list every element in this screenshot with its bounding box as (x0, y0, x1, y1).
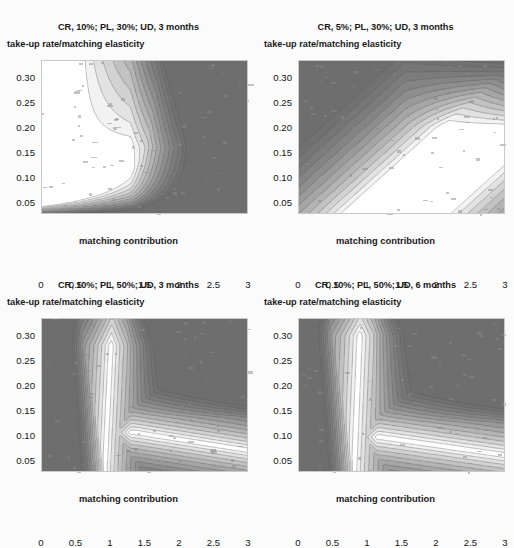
contour-label-mark (208, 68, 213, 70)
contour-label-mark (480, 214, 483, 216)
contour-label-mark (329, 372, 333, 374)
contour-label-mark (217, 188, 220, 191)
contour-label-mark (55, 420, 59, 422)
contour-label-mark (303, 385, 308, 386)
contour-label-mark (439, 167, 443, 168)
contour-label-mark (157, 466, 161, 468)
contour-label-mark (462, 354, 466, 356)
contour-label-mark (91, 324, 94, 326)
contour-label-mark (88, 396, 93, 398)
y-tick-label: 0.15 (273, 404, 292, 415)
contour-label-mark (138, 351, 144, 352)
contour-label-mark (324, 151, 327, 153)
panel-title: CR, 10%; PL, 50%; UD, 3 months (0, 280, 257, 290)
contour-label-mark (418, 343, 421, 344)
contour-label-mark (126, 450, 131, 452)
panel-title: CR, 5%; PL, 30%; UD, 3 months (257, 22, 514, 32)
contour-label-mark (316, 65, 320, 68)
contour-label-mark (439, 361, 441, 363)
x-axis-label: matching contribution (0, 235, 257, 246)
contour-label-mark (466, 78, 471, 80)
contour-label-mark (362, 168, 368, 170)
contour-label-mark (319, 465, 321, 467)
contour-label-mark (324, 77, 329, 78)
contour-label-mark (482, 87, 485, 89)
contour-label-mark (166, 197, 169, 199)
contour-label-mark (313, 370, 318, 372)
contour-label-mark (205, 413, 210, 415)
contour-label-mark (431, 414, 435, 416)
contour-label-mark (414, 402, 418, 404)
contour-label-mark (47, 363, 50, 365)
contour-label-mark (115, 118, 119, 120)
contour-label-mark (138, 433, 141, 435)
contour-label-mark (354, 71, 360, 74)
contour-label-mark (482, 416, 488, 418)
contour-label-mark (241, 396, 245, 399)
x-tick-label: 1 (107, 537, 112, 548)
contour-label-mark (307, 377, 312, 379)
contour-label-mark (173, 173, 176, 175)
contour-label-mark (409, 467, 412, 470)
contour-label-mark (333, 470, 336, 473)
contour-label-mark (138, 206, 141, 209)
contour-label-mark (318, 391, 322, 394)
contour-label-mark (466, 73, 469, 76)
y-tick-label: 0.10 (16, 429, 35, 440)
contour-label-mark (432, 137, 437, 140)
contour-label-mark (161, 165, 165, 167)
contour-label-mark (319, 429, 325, 431)
contour-label-mark (82, 441, 86, 443)
plot-area[interactable]: 0.050.100.150.200.250.3000.511.522.53 (41, 60, 248, 214)
contour-label-mark (354, 133, 357, 135)
contour-label-mark (74, 91, 80, 94)
x-tick-label: 1.5 (138, 537, 151, 548)
y-tick-label: 0.05 (16, 454, 35, 465)
contour-label-mark (53, 318, 58, 320)
y-tick-label: 0.25 (273, 355, 292, 366)
contour-label-mark (89, 193, 92, 195)
contour-label-mark (417, 408, 422, 410)
contour-label-mark (400, 444, 405, 446)
contour-label-mark (231, 459, 233, 462)
contour-label-mark (109, 319, 113, 321)
contour-label-mark (376, 128, 379, 130)
contour-label-mark (210, 449, 216, 451)
plot-area[interactable]: 0.050.100.150.200.250.3000.511.522.53 (41, 318, 248, 472)
plot-area[interactable]: 0.050.100.150.200.250.3000.511.522.53 (298, 60, 505, 214)
contour-label-mark (468, 472, 470, 474)
contour-label-mark (184, 322, 188, 324)
contour-label-mark (467, 359, 472, 360)
contour-label-mark (153, 430, 156, 432)
contour-label-mark (90, 393, 94, 396)
contour-label-mark (184, 338, 186, 340)
contour-label-mark (89, 63, 93, 66)
contour-label-mark (349, 174, 352, 177)
plot-area[interactable]: 0.050.100.150.200.250.3000.511.522.53 (298, 318, 505, 472)
contour-label-mark (319, 440, 323, 442)
x-tick-label: 0.5 (69, 537, 82, 548)
contour-label-mark (202, 136, 205, 138)
contour-label-mark (48, 455, 51, 457)
x-tick-label: 3 (502, 537, 507, 548)
contour-label-mark (449, 342, 452, 345)
contour-label-mark (415, 137, 421, 140)
y-tick-label: 0.10 (16, 171, 35, 182)
contour-label-mark (209, 352, 215, 353)
contour-label-mark (374, 69, 379, 70)
contour-label-mark (316, 174, 319, 176)
contour-label-mark (448, 66, 451, 68)
y-tick-label: 0.20 (16, 380, 35, 391)
contour-label-mark (431, 356, 436, 359)
contour-label-mark (217, 430, 221, 432)
contour-label-mark (396, 328, 402, 330)
contour-label-mark (500, 144, 506, 146)
panel-subtitle: take-up rate/matching elasticity (7, 297, 144, 307)
contour-label-mark (330, 375, 334, 378)
contour-label-mark (112, 199, 117, 201)
contour-label-mark (393, 405, 397, 406)
contour-label-mark (201, 117, 207, 118)
contour-label-mark (213, 466, 216, 468)
contour-label-mark (62, 183, 65, 184)
